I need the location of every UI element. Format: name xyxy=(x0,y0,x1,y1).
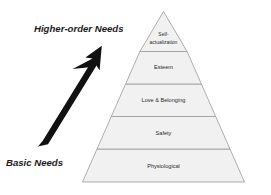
diagram-canvas: Physiological Safety Love & Belonging Es… xyxy=(0,0,271,195)
arrow-head xyxy=(73,46,102,83)
pyramid-tier-safety: Safety xyxy=(97,117,230,150)
pyramid-tier-love-and-belonging: Love & Belonging xyxy=(111,84,215,117)
tier-label-physiological: Physiological xyxy=(147,163,180,169)
pyramid-tier-esteem: Esteem xyxy=(126,52,202,85)
higher-order-needs-label: Higher-order Needs xyxy=(34,23,124,34)
basic-needs-label: Basic Needs xyxy=(6,157,63,168)
tier-label-self-actualization-line2: actualization xyxy=(150,39,178,45)
pyramid-tiers: Physiological Safety Love & Belonging Es… xyxy=(83,12,245,183)
tier-label-safety: Safety xyxy=(156,130,172,136)
pyramid-tier-self-actualization: Self- actualization xyxy=(140,12,187,52)
upward-arrow-icon xyxy=(38,46,102,147)
pyramid-tier-physiological: Physiological xyxy=(83,149,245,182)
maslow-pyramid-diagram: Physiological Safety Love & Belonging Es… xyxy=(0,0,271,195)
tier-label-esteem: Esteem xyxy=(154,64,173,70)
tier-label-self-actualization-line1: Self- xyxy=(158,31,169,37)
tier-label-love-and-belonging: Love & Belonging xyxy=(142,97,186,103)
